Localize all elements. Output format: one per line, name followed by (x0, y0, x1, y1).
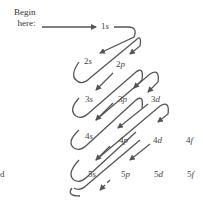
orbital-4f: 4f (186, 136, 193, 145)
orbital-3p: 3p (118, 95, 127, 104)
aufbau-diagram: Begin here: (0, 0, 203, 203)
orbital-5p: 5p (121, 170, 130, 179)
orbital-4p: 4p (119, 136, 128, 145)
stray-d-text: d (0, 170, 5, 179)
orbital-2s: 2s (84, 57, 92, 66)
orbital-3s: 3s (85, 95, 93, 104)
orbital-5f: 5f (187, 170, 194, 179)
orbital-4d: 4d (153, 136, 162, 145)
orbital-5d: 5d (154, 170, 163, 179)
orbital-5s: 5s (88, 170, 96, 179)
orbital-2p: 2p (116, 60, 125, 69)
orbital-1s: 1s (101, 22, 109, 31)
orbital-4s: 4s (85, 132, 93, 141)
orbital-3d: 3d (151, 95, 160, 104)
